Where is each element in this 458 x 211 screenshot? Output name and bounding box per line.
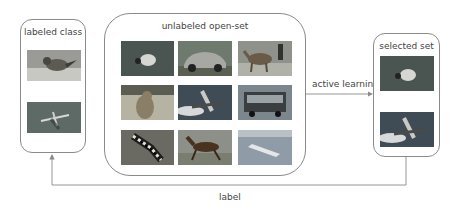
unlabeled-open-set-box: unlabeled open-set <box>104 13 306 176</box>
selected-set-title: selected set <box>374 41 439 51</box>
unlabeled-image-truck <box>238 85 292 120</box>
selected-image-bird <box>380 56 434 91</box>
labeled-class-title: labeled class <box>21 27 85 37</box>
unlabeled-image-ship <box>238 130 292 165</box>
labeled-image-bird <box>27 50 81 81</box>
selected-image-airplane <box>380 112 434 147</box>
active-learning-label: active learning <box>312 79 379 89</box>
unlabeled-image-horse <box>178 130 232 165</box>
unlabeled-open-set-title: unlabeled open-set <box>105 21 305 31</box>
label-edge-label: label <box>219 192 241 202</box>
unlabeled-image-bird <box>121 41 174 76</box>
selected-set-box: selected set <box>373 33 440 157</box>
labeled-image-airplane <box>27 102 81 133</box>
labeled-class-box: labeled class <box>20 19 86 153</box>
unlabeled-image-airplane <box>178 85 232 120</box>
unlabeled-image-car <box>178 41 232 76</box>
unlabeled-image-frog <box>121 130 174 165</box>
unlabeled-image-cat <box>121 85 174 120</box>
unlabeled-image-deer <box>238 41 292 76</box>
